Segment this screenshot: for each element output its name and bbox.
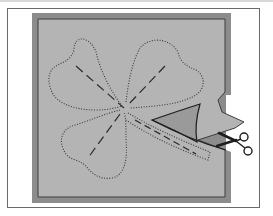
fabric-block xyxy=(32,13,244,203)
figure-canvas xyxy=(0,0,273,216)
applique-diagram xyxy=(0,0,273,216)
